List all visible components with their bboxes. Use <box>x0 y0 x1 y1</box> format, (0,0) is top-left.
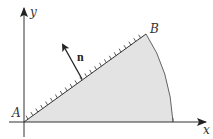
shaded-sector <box>24 34 173 122</box>
diagram-canvas: y x A B n <box>0 0 213 139</box>
point-b-label: B <box>149 22 159 36</box>
x-axis-label: x <box>203 123 210 137</box>
normal-label: n <box>77 50 84 64</box>
y-axis-label: y <box>29 5 37 19</box>
point-a-label: A <box>11 106 21 120</box>
